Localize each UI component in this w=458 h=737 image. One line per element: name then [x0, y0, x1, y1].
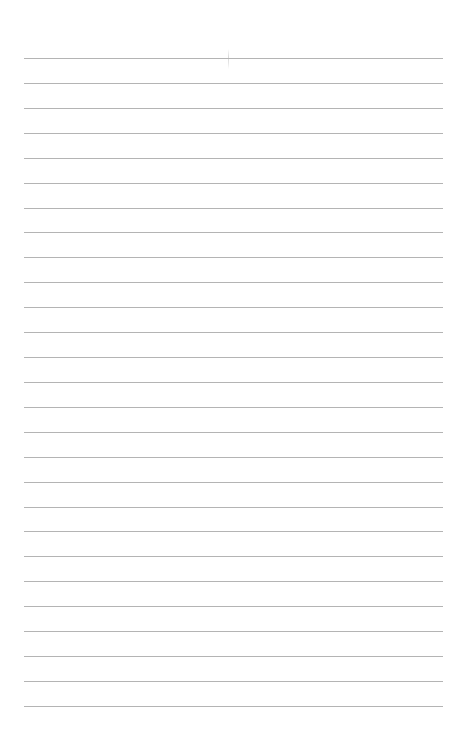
ruled-line	[24, 507, 443, 508]
ruled-line	[24, 407, 443, 408]
ruled-line	[24, 606, 443, 607]
ruled-line	[24, 531, 443, 532]
ruled-line	[24, 656, 443, 657]
ruled-line	[24, 556, 443, 557]
ruled-line	[24, 108, 443, 109]
ruled-line	[24, 282, 443, 283]
lined-paper-page	[0, 0, 458, 737]
ruled-line	[24, 681, 443, 682]
ruled-line	[24, 158, 443, 159]
ruled-line	[24, 83, 443, 84]
center-fold-mark	[228, 49, 229, 69]
ruled-line	[24, 332, 443, 333]
ruled-line	[24, 58, 443, 59]
ruled-line	[24, 581, 443, 582]
ruled-line	[24, 457, 443, 458]
ruled-line	[24, 307, 443, 308]
ruled-line	[24, 482, 443, 483]
ruled-line	[24, 232, 443, 233]
ruled-line	[24, 257, 443, 258]
ruled-line	[24, 183, 443, 184]
ruled-line	[24, 382, 443, 383]
ruled-line	[24, 432, 443, 433]
ruled-line	[24, 208, 443, 209]
ruled-line	[24, 706, 443, 707]
ruled-line	[24, 133, 443, 134]
ruled-line	[24, 631, 443, 632]
ruled-line	[24, 357, 443, 358]
